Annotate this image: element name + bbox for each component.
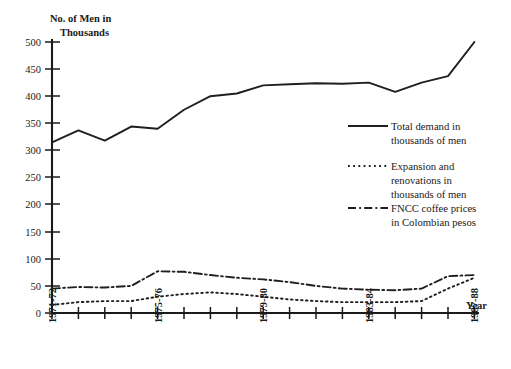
x-axis-title: Year [466,300,487,311]
y-tick-label: 500 [25,37,41,48]
y-axis-title-line2: Thousands [60,27,109,38]
y-tick-label: 150 [25,227,41,238]
legend-label: FNCC coffee prices [391,202,476,214]
legend-label: Expansion and [391,160,455,172]
legend-label: renovations in [391,174,453,186]
legend-label: Total demand in [391,120,461,132]
x-tick-label: 1979-80 [258,288,269,323]
y-axis-tick-labels: 500 450 400 350 300 250 200 150 100 50 0 [25,37,41,319]
y-tick-label: 100 [25,254,41,265]
x-tick-label: 1975-76 [153,288,164,323]
chart-legend: Total demand in thousands of men Expansi… [348,120,476,228]
series-fncc-coffee-prices [52,271,474,290]
legend-label: thousands of men [391,188,467,200]
y-tick-label: 450 [25,64,41,75]
y-tick-label: 300 [25,145,41,156]
y-tick-label: 0 [36,308,41,319]
y-tick-label: 350 [25,118,41,129]
line-chart: No. of Men in Thousands 500 450 400 350 … [0,0,511,369]
legend-label: in Colombian pesos [391,216,476,228]
y-tick-label: 400 [25,91,41,102]
chart-container: No. of Men in Thousands 500 450 400 350 … [0,0,511,369]
y-tick-label: 200 [25,199,41,210]
x-tick-label: 1983-84 [364,287,375,323]
x-axis-tick-labels: 1971-721975-761979-801983-841987-88 [47,287,480,323]
y-tick-label: 50 [31,281,42,292]
y-axis-title-line1: No. of Men in [50,13,111,24]
y-tick-label: 250 [25,172,41,183]
legend-label: thousands of men [391,134,467,146]
